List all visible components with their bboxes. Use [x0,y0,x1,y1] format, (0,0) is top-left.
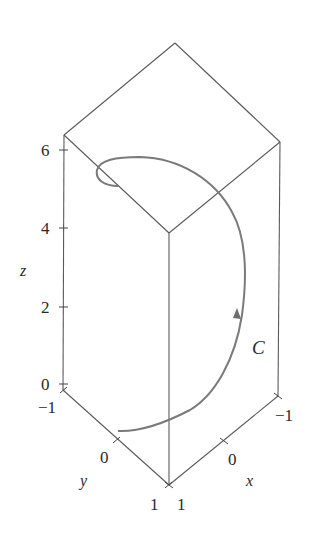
y-tick-label-0: 0 [100,448,109,467]
box-edge-top-back-left [64,43,175,135]
box-edge-top-front-right [169,142,280,233]
x-tick-0 [220,438,228,444]
curve-direction-arrow-icon [233,308,241,319]
y-tick-label-1: 1 [150,495,159,514]
x-axis-label: x [245,472,253,489]
z-axis-label: z [19,262,27,279]
z-tick-label-6: 6 [41,141,50,160]
space-curve-figure: 6 4 2 0 z −1 0 1 y 1 0 −1 x C [0,0,310,536]
curve-label: C [252,337,265,358]
box-edge-top-back-right [175,43,280,142]
z-tick-label-0: 0 [41,375,50,394]
x-tick-label-0: 0 [228,450,237,469]
x-tick-label-neg1: −1 [275,406,293,425]
curve-c [97,157,245,431]
box-edge-top-front-left [64,135,169,233]
z-axis-line [63,135,64,390]
z-tick-label-4: 4 [41,219,50,238]
tick-marks [59,150,282,488]
y-axis-label: y [78,472,88,490]
y-tick-label-neg1: −1 [38,398,56,417]
z-tick-label-2: 2 [41,298,50,317]
x-tick-label-1: 1 [177,495,186,514]
box-edge-right-vertical [278,142,280,396]
y-axis-line [63,390,169,485]
